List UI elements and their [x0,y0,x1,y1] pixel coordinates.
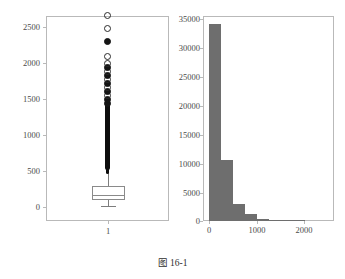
boxplot-outlier [104,60,111,67]
boxplot-lower-cap [101,206,116,207]
histogram-ytick-mark [200,193,203,194]
histogram-bar [257,219,269,221]
histogram-ytick-label: 0 [172,217,200,226]
boxplot-ytick-label: 1500 [0,95,40,104]
histogram-bar [209,24,221,221]
boxplot-ytick-label: 2500 [0,23,40,32]
boxplot-ytick-mark [43,135,46,136]
figure-container: 2500 2000 1500 1000 500 0 1 [0,0,345,279]
boxplot-ytick-mark [43,171,46,172]
boxplot-xtick-mark [108,221,109,224]
histogram-ytick-mark [200,77,203,78]
histogram-ytick-label: 10000 [172,160,200,169]
histogram-ytick-mark [200,164,203,165]
histogram-ytick-mark [200,106,203,107]
histogram-bar [293,220,305,221]
figure-caption: 图 16-1 [0,255,345,269]
histogram-xtick-mark [257,221,258,224]
boxplot-box [92,186,125,200]
boxplot-median-line [92,195,125,196]
histogram-xtick-label: 1000 [249,226,266,235]
boxplot-outlier [104,12,111,19]
histogram-ytick-label: 15000 [172,131,200,140]
histogram-ytick-mark [200,48,203,49]
histogram-bar [233,204,245,221]
histogram-ytick-label: 30000 [172,44,200,53]
histogram-bar [245,214,257,221]
histogram-bar [281,220,293,221]
histogram-xtick-mark [209,221,210,224]
histogram-xtick-label: 0 [207,226,211,235]
histogram-xtick-label: 2000 [296,226,313,235]
boxplot-panel: 2500 2000 1500 1000 500 0 1 [0,0,180,240]
histogram-bar [269,220,281,221]
boxplot-ytick-label: 0 [0,203,40,212]
boxplot-xtick-label: 1 [106,227,110,236]
boxplot-outlier [104,53,111,60]
histogram-xtick-mark [304,221,305,224]
histogram-ytick-label: 20000 [172,102,200,111]
histogram-ytick-label: 5000 [172,189,200,198]
histogram-ytick-label: 25000 [172,73,200,82]
boxplot-dense-outlier-column [105,104,110,170]
boxplot-ytick-label: 500 [0,167,40,176]
histogram-ytick-mark [200,19,203,20]
histogram-ytick-label: 35000 [172,15,200,24]
histogram-ytick-mark [200,221,203,222]
boxplot-ytick-mark [43,27,46,28]
boxplot-ytick-mark [43,99,46,100]
boxplot-outlier [104,25,111,32]
boxplot-ytick-mark [43,63,46,64]
boxplot-ytick-label: 1000 [0,131,40,140]
boxplot-dense-outlier-column [106,168,109,174]
histogram-ytick-mark [200,135,203,136]
boxplot-ytick-label: 2000 [0,59,40,68]
boxplot-outlier [104,38,111,45]
histogram-bar [221,160,233,221]
histogram-panel: 35000 30000 25000 20000 15000 10000 5000… [180,0,345,240]
boxplot-ytick-mark [43,207,46,208]
